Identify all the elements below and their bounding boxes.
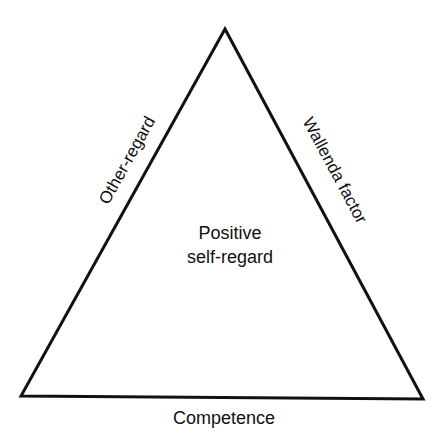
- center-label-line1: Positive: [198, 223, 261, 243]
- left-edge-label: Other-regard: [95, 113, 159, 207]
- center-label-line2: self-regard: [187, 247, 273, 267]
- bottom-edge-label: Competence: [173, 408, 275, 428]
- right-edge-label: Wallenda factor: [299, 114, 371, 227]
- triangle-diagram: Other-regard Wallenda factor Positive se…: [0, 0, 444, 448]
